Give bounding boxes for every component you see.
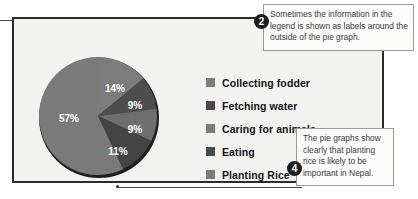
pie-chart: 14% 9% 9% 11% 57% <box>36 54 162 180</box>
legend-item-label: Fetching water <box>222 100 298 112</box>
legend-item-label: Collecting fodder <box>222 77 310 89</box>
pie-label-caring-for-animals: 9% <box>128 124 143 135</box>
pie-chart-svg: 14% 9% 9% 11% 57% <box>36 54 162 180</box>
legend-item-collecting-fodder: Collecting fodder <box>206 71 336 94</box>
legend-item-fetching-water: Fetching water <box>206 94 336 117</box>
legend-swatch-icon <box>206 78 215 87</box>
callout-number-badge-2[interactable]: 2 <box>254 14 269 29</box>
callout-2-text: Sometimes the information in the legend … <box>270 9 408 44</box>
callout-4-text: The pie graphs show clearly that plantin… <box>303 133 388 179</box>
legend-swatch-icon <box>206 101 215 110</box>
legend-swatch-icon <box>206 124 215 133</box>
legend-swatch-icon <box>206 170 215 179</box>
pie-label-fetching-water: 9% <box>128 100 143 111</box>
pie-label-eating: 11% <box>108 146 128 157</box>
callout-box-4: The pie graphs show clearly that plantin… <box>296 128 394 186</box>
annotated-pie-chart-figure: 14% 9% 9% 11% 57% Collecting fodder Fetc… <box>0 0 418 199</box>
pie-label-planting-rice: 57% <box>59 113 79 124</box>
callout-4-leader-line <box>118 187 302 188</box>
callout-box-2: Sometimes the information in the legend … <box>263 4 414 51</box>
legend-swatch-icon <box>206 147 215 156</box>
legend-item-label: Planting Rice <box>222 169 290 181</box>
legend-item-label: Eating <box>222 146 255 158</box>
pie-label-collecting-fodder: 14% <box>105 83 125 94</box>
callout-number-badge-4[interactable]: 4 <box>287 161 302 176</box>
